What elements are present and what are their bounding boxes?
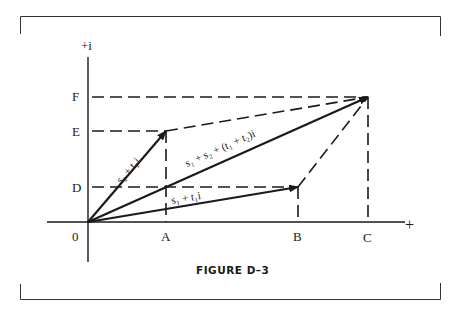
vector-addition-diagram: +i + 0 F E D A B C s₂ + t₂i s₁ + t₁i s₁ … <box>0 0 455 314</box>
figure-caption: FIGURE D–3 <box>196 264 269 276</box>
y-tick-F: F <box>72 89 79 104</box>
y-tick-E: E <box>72 124 80 139</box>
y-axis-label: +i <box>81 38 92 53</box>
x-tick-B: B <box>293 229 302 244</box>
origin-label: 0 <box>72 229 79 244</box>
x-tick-C: C <box>363 230 372 245</box>
y-tick-D: D <box>72 180 81 195</box>
frame-bottom <box>21 283 441 300</box>
frame-top <box>21 17 441 37</box>
x-tick-A: A <box>161 229 171 244</box>
x-axis-label: + <box>405 216 414 233</box>
vector-label-s2-t2i: s₂ + t₂i <box>113 155 142 185</box>
